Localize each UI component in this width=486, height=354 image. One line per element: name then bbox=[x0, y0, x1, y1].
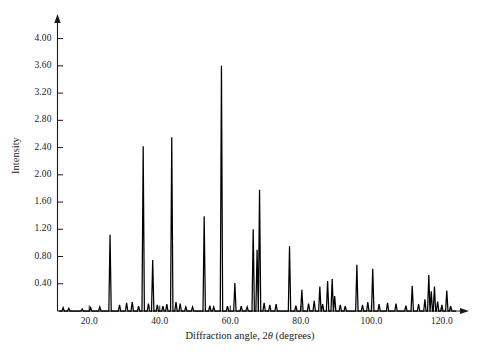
y-tick-label: 3.60 bbox=[18, 60, 52, 70]
x-tick-label: 40.0 bbox=[138, 316, 182, 326]
y-tick-label: 2.80 bbox=[18, 114, 52, 124]
y-tick-label: 0.40 bbox=[18, 278, 52, 288]
y-tick-label: 4.00 bbox=[18, 33, 52, 43]
x-tick-label: 100.0 bbox=[349, 316, 393, 326]
diffraction-trace-line bbox=[59, 66, 456, 311]
x-axis-title: Diffraction angle, 2θ (degrees) bbox=[120, 330, 380, 341]
y-tick-label: 2.00 bbox=[18, 169, 52, 179]
xrd-diffraction-figure: 0.400.801.201.602.002.402.803.203.604.00… bbox=[0, 0, 486, 354]
x-axis-title-prefix: Diffraction angle, 2 bbox=[185, 330, 267, 341]
y-tick-label: 3.20 bbox=[18, 87, 52, 97]
y-tick-label: 2.40 bbox=[18, 142, 52, 152]
diffraction-plot-canvas bbox=[0, 0, 486, 354]
y-axis-title: Intensity bbox=[10, 121, 21, 191]
y-tick-label: 0.80 bbox=[18, 251, 52, 261]
y-tick-label: 1.60 bbox=[18, 196, 52, 206]
y-axis-ticks bbox=[58, 39, 64, 284]
x-tick-label: 80.0 bbox=[279, 316, 323, 326]
x-axis-arrow-icon bbox=[460, 308, 469, 314]
x-axis-title-suffix: (degrees) bbox=[273, 330, 315, 341]
x-tick-label: 20.0 bbox=[67, 316, 111, 326]
axes-group bbox=[54, 14, 469, 314]
y-axis-arrow-icon bbox=[54, 14, 60, 23]
y-tick-label: 1.20 bbox=[18, 223, 52, 233]
x-tick-label: 60.0 bbox=[208, 316, 252, 326]
x-tick-label: 120.0 bbox=[420, 316, 464, 326]
y-axis-title-text: Intensity bbox=[10, 137, 21, 174]
diffraction-pattern-trace bbox=[59, 66, 456, 311]
